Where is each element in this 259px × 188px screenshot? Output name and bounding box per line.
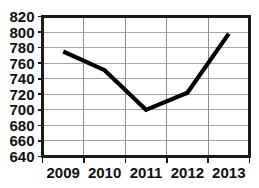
y-axis-tick-label: 680 — [9, 117, 34, 134]
x-axis-tick-label: 2013 — [212, 164, 245, 181]
y-axis-tick-label: 800 — [9, 24, 34, 41]
chart-canvas: 8208007807607407207006806606402009201020… — [0, 0, 259, 188]
x-axis-tick-label: 2009 — [47, 164, 80, 181]
y-axis-tick-label: 740 — [9, 70, 34, 87]
plot-area-background — [43, 17, 250, 157]
y-axis-tick-label: 780 — [9, 39, 34, 56]
y-axis-tick-label: 640 — [9, 148, 34, 165]
line-chart: 8208007807607407207006806606402009201020… — [0, 0, 259, 188]
y-axis-tick-label: 720 — [9, 86, 34, 103]
y-axis-tick-label: 700 — [9, 101, 34, 118]
y-axis-tick-label: 760 — [9, 55, 34, 72]
y-axis-tick-label: 820 — [9, 8, 34, 25]
y-axis-tick-label: 660 — [9, 132, 34, 149]
x-axis-tick-label: 2010 — [88, 164, 121, 181]
x-axis-tick-label: 2011 — [130, 164, 163, 181]
x-axis-tick-label: 2012 — [171, 164, 204, 181]
